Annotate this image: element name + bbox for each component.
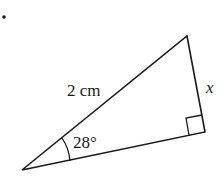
angle-label: 28° bbox=[73, 133, 97, 152]
problem-bullet-icon bbox=[2, 15, 6, 19]
angle-arc-icon bbox=[62, 138, 70, 161]
right-angle-marker-icon bbox=[186, 115, 202, 135]
side-x-label: x bbox=[205, 78, 214, 97]
hypotenuse-label: 2 cm bbox=[67, 81, 101, 100]
triangle-diagram: 2 cm x 28° bbox=[0, 0, 224, 177]
right-triangle bbox=[22, 36, 205, 170]
